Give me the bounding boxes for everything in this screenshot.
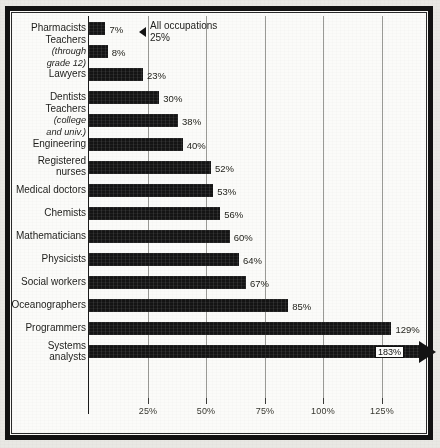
- bar-value-medical-doctors: 53%: [217, 186, 236, 197]
- bar-value-oceanographers: 85%: [292, 301, 311, 312]
- bar-texture: [89, 276, 246, 289]
- bar-overflow-arrow-systems-analysts: [419, 341, 436, 363]
- category-label-dentists: Dentists: [0, 91, 86, 102]
- bar-teachers-college: [89, 114, 178, 127]
- bar-mathematicians: [89, 230, 230, 243]
- category-label-chemists: Chemists: [0, 207, 86, 218]
- bar-texture: [89, 45, 108, 58]
- bar-texture: [89, 345, 419, 358]
- bar-teachers-k12: [89, 45, 108, 58]
- bar-registered-nurses: [89, 161, 211, 174]
- bar-value-lawyers: 23%: [147, 70, 166, 81]
- bar-value-programmers: 129%: [395, 324, 419, 335]
- category-label-programmers: Programmers: [0, 322, 86, 333]
- bar-texture: [89, 68, 143, 81]
- bar-pharmacists: [89, 22, 105, 35]
- bar-value-systems-analysts: 183%: [375, 346, 404, 358]
- bar-texture: [89, 253, 239, 266]
- bar-value-teachers-k12: 8%: [112, 47, 126, 58]
- all-occupations-annotation: All occupations25%: [150, 20, 217, 43]
- bar-chemists: [89, 207, 220, 220]
- category-label-mathematicians: Mathematicians: [0, 230, 86, 241]
- bar-value-chemists: 56%: [224, 209, 243, 220]
- bar-value-dentists: 30%: [163, 93, 182, 104]
- bar-value-social-workers: 67%: [250, 278, 269, 289]
- tick-75-label: 75%: [256, 406, 275, 416]
- tick-75-mark: [265, 398, 266, 404]
- bar-texture: [89, 322, 391, 335]
- tick-25-label: 25%: [139, 406, 158, 416]
- category-label-physicists: Physicists: [0, 253, 86, 264]
- tick-25-mark: [148, 398, 149, 404]
- bar-oceanographers: [89, 299, 288, 312]
- bar-texture: [89, 299, 288, 312]
- bar-dentists: [89, 91, 159, 104]
- category-label-pharmacists: Pharmacists: [0, 22, 86, 33]
- bar-physicists: [89, 253, 239, 266]
- bar-texture: [89, 114, 178, 127]
- bar-texture: [89, 91, 159, 104]
- annotation-line-2: 25%: [150, 32, 170, 43]
- bar-value-mathematicians: 60%: [234, 232, 253, 243]
- category-label-systems-analysts: Systemsanalysts: [0, 340, 86, 362]
- bar-value-pharmacists: 7%: [109, 24, 123, 35]
- bar-social-workers: [89, 276, 246, 289]
- bar-texture: [89, 161, 211, 174]
- category-label-registered-nurses: Registerednurses: [0, 155, 86, 177]
- category-label-social-workers: Social workers: [0, 276, 86, 287]
- bar-programmers: [89, 322, 391, 335]
- bar-texture: [89, 207, 220, 220]
- annotation-line-1: All occupations: [150, 20, 217, 31]
- bar-texture: [89, 22, 105, 35]
- bar-systems-analysts: [89, 345, 419, 358]
- bar-value-physicists: 64%: [243, 255, 262, 266]
- tick-125-label: 125%: [370, 406, 394, 416]
- bar-medical-doctors: [89, 184, 213, 197]
- category-label-teachers-k12: Teachers(throughgrade 12): [0, 34, 86, 69]
- bar-lawyers: [89, 68, 143, 81]
- tick-125-mark: [382, 398, 383, 404]
- tick-100-mark: [323, 398, 324, 404]
- category-label-medical-doctors: Medical doctors: [0, 184, 86, 195]
- bar-engineering: [89, 138, 183, 151]
- chart-figure: Pharmacists7%Teachers(throughgrade 12)8%…: [0, 0, 440, 448]
- category-label-oceanographers: Oceanographers: [0, 299, 86, 310]
- bar-texture: [89, 230, 230, 243]
- tick-100-label: 100%: [311, 406, 335, 416]
- category-label-engineering: Engineering: [0, 138, 86, 149]
- tick-50-label: 50%: [197, 406, 216, 416]
- bar-texture: [89, 138, 183, 151]
- bar-texture: [89, 184, 213, 197]
- category-label-teachers-college: Teachers(collegeand univ.): [0, 103, 86, 138]
- bar-value-engineering: 40%: [187, 140, 206, 151]
- category-label-lawyers: Lawyers: [0, 68, 86, 79]
- bar-value-registered-nurses: 52%: [215, 163, 234, 174]
- all-occupations-marker: [139, 27, 146, 37]
- tick-50-mark: [206, 398, 207, 404]
- bar-value-teachers-college: 38%: [182, 116, 201, 127]
